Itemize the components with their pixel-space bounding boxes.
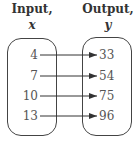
output-value: 96 xyxy=(99,109,114,123)
input-value: 7 xyxy=(10,69,38,83)
output-value: 75 xyxy=(99,89,114,103)
input-value: 10 xyxy=(10,89,38,103)
input-value: 13 xyxy=(10,109,38,123)
output-value: 54 xyxy=(99,69,114,83)
input-value: 4 xyxy=(10,48,38,62)
output-value: 33 xyxy=(99,48,114,62)
